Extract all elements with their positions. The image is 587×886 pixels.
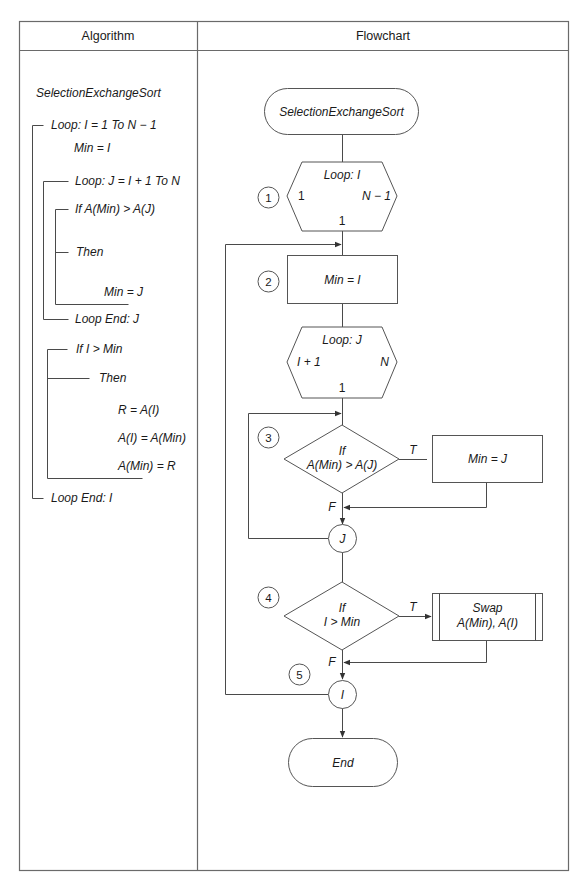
algo-line-if-1: If A(Min) > A(J): [75, 202, 155, 216]
decision-if-i-gt-min: If I > Min T F: [284, 582, 418, 669]
algo-line-loop-j: Loop: J = I + 1 To N: [75, 174, 180, 188]
algo-line-loop-end-j: Loop End: J: [75, 312, 140, 326]
loop-j-hexagon: Loop: J I + 1 N 1: [287, 327, 397, 398]
decision-1-true-label: T: [409, 443, 418, 457]
loop-i-label: Loop: I: [324, 168, 361, 182]
decision-1-line2: A(Min) > A(J): [306, 458, 378, 472]
algorithm-pseudocode: SelectionExchangeSort Loop: I = 1 To N −…: [33, 86, 186, 505]
step-marker-4: 4: [258, 587, 279, 608]
swap-line2: A(Min), A(I): [456, 616, 518, 630]
process-min-eq-i: Min = I: [288, 256, 398, 304]
process-min-eq-i-label: Min = I: [324, 273, 361, 287]
algo-line-r-eq-ai: R = A(I): [118, 403, 159, 417]
algo-line-loop-i: Loop: I = 1 To N − 1: [51, 118, 157, 132]
algorithm-title: SelectionExchangeSort: [36, 86, 161, 100]
connector-j-label: J: [339, 532, 347, 546]
step-marker-5: 5: [289, 664, 310, 685]
loop-i-step: 1: [339, 214, 346, 228]
loop-j-label: Loop: J: [322, 333, 362, 347]
process-min-eq-j-label: Min = J: [468, 452, 508, 466]
decision-2-line2: I > Min: [324, 615, 361, 629]
algo-line-amin-eq-r: A(Min) = R: [117, 459, 176, 473]
loop-j-from: I + 1: [297, 355, 321, 369]
predefined-process-swap: Swap A(Min), A(I): [433, 594, 543, 641]
edge-swap-return: [344, 640, 487, 663]
swap-line1: Swap: [472, 601, 502, 615]
edge-min-j-return: [344, 482, 487, 508]
svg-text:3: 3: [265, 432, 271, 444]
algo-line-then-1: Then: [76, 245, 104, 259]
svg-text:5: 5: [296, 669, 302, 681]
loop-i-to: N − 1: [362, 189, 391, 203]
connector-j: J: [329, 525, 357, 553]
algo-line-min-eq-i: Min = I: [74, 141, 111, 155]
loop-j-to: N: [380, 355, 389, 369]
algo-line-loop-end-i: Loop End: I: [51, 491, 113, 505]
end-label: End: [332, 756, 354, 770]
loop-i-from: 1: [298, 189, 305, 203]
loop-j-step: 1: [339, 381, 346, 395]
algo-line-if-2: If I > Min: [76, 342, 123, 356]
loop-i-bracket: [33, 126, 44, 499]
algo-line-min-eq-j: Min = J: [104, 285, 144, 299]
decision-if-amin-gt-aj: If A(Min) > A(J) T F: [284, 425, 418, 514]
step-marker-2: 2: [258, 271, 279, 292]
algo-line-then-2: Then: [99, 371, 127, 385]
algo-line-ai-eq-amin: A(I) = A(Min): [117, 431, 186, 445]
start-label: SelectionExchangeSort: [279, 105, 404, 119]
end-terminator: End: [289, 739, 398, 787]
process-min-eq-j: Min = J: [433, 436, 543, 483]
svg-text:1: 1: [265, 192, 271, 204]
header-flowchart: Flowchart: [356, 29, 411, 43]
svg-text:2: 2: [265, 276, 271, 288]
start-terminator: SelectionExchangeSort: [265, 89, 419, 135]
step-marker-1: 1: [258, 187, 279, 208]
connector-i: I: [329, 681, 357, 709]
decision-2-true-label: T: [409, 600, 418, 614]
step-marker-3: 3: [258, 427, 279, 448]
decision-2-false-label: F: [328, 655, 336, 669]
svg-text:4: 4: [265, 592, 272, 604]
loop-i-hexagon: Loop: I 1 N − 1 1: [287, 162, 397, 231]
header-algorithm: Algorithm: [82, 29, 135, 43]
decision-1-false-label: F: [328, 500, 336, 514]
